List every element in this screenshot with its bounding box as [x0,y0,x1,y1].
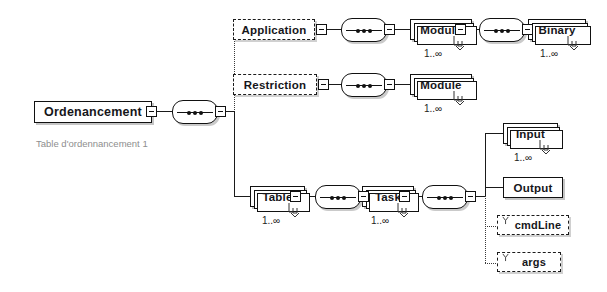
occurrence-arrow-input [538,139,551,155]
collapse-toggle-icon-application[interactable] [316,24,327,35]
node-application-label: Application [242,24,307,36]
line-trunk-to-table [234,196,251,197]
occurrence-module-restriction: 1..∞ [424,103,442,114]
node-output[interactable]: Output [503,177,563,198]
collapse-toggle-icon-restriction[interactable] [318,79,329,90]
sequence-compositor-restriction[interactable] [341,73,387,97]
sequence-dots-icon [342,82,386,89]
collapse-toggle-icon-root-sequence[interactable] [215,106,226,117]
node-restriction-label: Restriction [244,79,306,91]
line-root-to-sequence [157,111,172,112]
line-root-sequence-out [226,111,234,112]
sequence-compositor-task[interactable] [422,185,468,209]
line-sequence-to-module-restriction [395,84,410,85]
sequence-compositor-root[interactable] [172,100,218,124]
collapse-toggle-icon-application-sequence[interactable] [384,24,395,35]
right-trunk-dotted [485,196,486,263]
occurrence-arrow-module-application [452,35,465,51]
root-caption: Table d'ordennancement 1 [36,138,148,149]
line-restriction-to-sequence [329,84,341,85]
line-application-to-sequence [327,29,341,30]
sequence-dots-icon [423,194,467,201]
occurrence-arrow-task [396,202,409,218]
collapse-toggle-icon-task-sequence[interactable] [465,191,476,202]
attribute-marker-icon-cmdline [502,216,510,225]
line-trunk-to-input [485,133,503,134]
line-trunk-to-output [485,187,503,188]
node-input-label: Input [516,128,545,140]
sequence-compositor-table[interactable] [315,185,361,209]
node-table-label: Table [262,191,292,203]
occurrence-binary: 1..∞ [540,48,558,59]
node-output-label: Output [514,182,553,194]
sequence-compositor-application[interactable] [341,18,387,42]
node-args-label: args [522,256,546,268]
occurrence-task: 1..∞ [371,215,389,226]
collapse-toggle-icon-table[interactable] [290,191,301,202]
node-cmdline-label: cmdLine [515,219,562,231]
trunk-solid-down [234,111,235,196]
collapse-toggle-icon-restriction-sequence[interactable] [384,79,395,90]
sequence-dots-icon [480,27,524,34]
occurrence-arrow-binary [566,35,579,51]
occurrence-table: 1..∞ [262,215,280,226]
node-module-restriction-label: Module [420,79,461,91]
line-sequence-to-module-app [395,29,410,30]
sequence-dots-icon [342,27,386,34]
node-ordenancement[interactable]: Ordenancement [34,101,152,123]
collapse-toggle-icon-ordenancement[interactable] [146,106,157,117]
node-application[interactable]: Application [233,19,315,40]
node-restriction[interactable]: Restriction [233,74,317,95]
sequence-dots-icon [173,109,217,116]
collapse-toggle-icon-table-sequence[interactable] [358,191,369,202]
schema-diagram-canvas: Ordenancement Table d'ordennancement 1 A… [0,0,607,292]
collapse-toggle-icon-module-app-sequence[interactable] [522,24,533,35]
attribute-marker-icon-args [502,253,510,262]
occurrence-input: 1..∞ [514,152,532,163]
sequence-compositor-module-application[interactable] [479,18,525,42]
collapse-toggle-icon-task[interactable] [399,191,410,202]
occurrence-arrow-table [287,202,300,218]
node-binary-label: Binary [539,24,576,36]
occurrence-module-application: 1..∞ [424,48,442,59]
occurrence-arrow-module-restriction [452,90,465,106]
node-ordenancement-label: Ordenancement [44,105,142,119]
collapse-toggle-icon-module-application[interactable] [455,24,466,35]
sequence-dots-icon [316,194,360,201]
node-task-label: Task [375,191,401,203]
trunk-dotted-up [234,30,235,112]
line-task-sequence-out [476,196,485,197]
